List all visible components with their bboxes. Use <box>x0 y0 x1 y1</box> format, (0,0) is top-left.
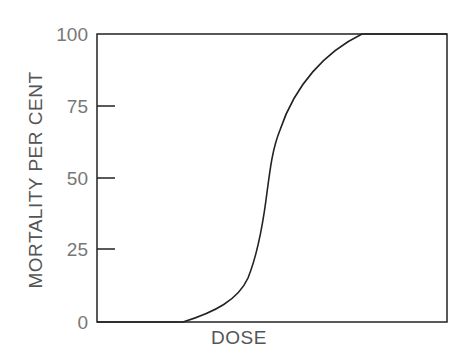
y-axis-tick-labels: 100 75 50 25 0 <box>56 24 88 333</box>
y-tick-75: 75 <box>67 96 88 117</box>
plot-frame <box>97 34 447 322</box>
y-tick-25: 25 <box>67 239 88 260</box>
y-tick-100: 100 <box>56 24 88 45</box>
y-tick-50: 50 <box>67 168 88 189</box>
y-axis-title: MORTALITY PER CENT <box>25 72 46 289</box>
dose-response-chart: 100 75 50 25 0 MORTALITY PER CENT DOSE <box>0 0 463 364</box>
sigmoid-curve <box>97 34 447 322</box>
y-tick-0: 0 <box>77 312 88 333</box>
y-axis-ticks <box>97 106 115 249</box>
x-axis-title: DOSE <box>211 327 267 348</box>
